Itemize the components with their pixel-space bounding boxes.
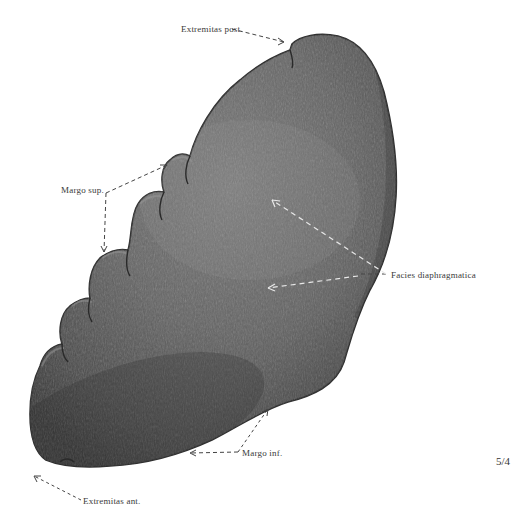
label-facies-diaphragmatica: Facies diaphragmatica [391, 270, 476, 280]
leader-extremitas-ant [34, 476, 81, 500]
organ-texture [0, 0, 523, 525]
plate-number: 5/4 [496, 455, 510, 467]
label-extremitas-post: Extremitas post. [181, 24, 243, 34]
spleen-illustration [0, 0, 523, 525]
label-extremitas-ant: Extremitas ant. [83, 496, 140, 506]
label-margo-inf: Margo inf. [242, 448, 282, 458]
label-margo-sup: Margo sup. [61, 185, 104, 195]
anatomical-plate: Extremitas post. Margo sup. Facies diaph… [0, 0, 523, 525]
